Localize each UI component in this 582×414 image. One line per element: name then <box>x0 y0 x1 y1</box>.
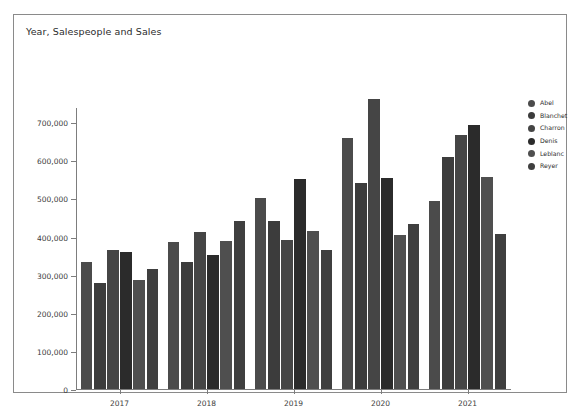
y-axis-tick-label: 700,000 <box>37 119 68 128</box>
bar[interactable] <box>394 235 405 389</box>
bar[interactable] <box>81 262 92 389</box>
legend-item-label: Blanchet <box>540 113 567 119</box>
legend-item[interactable]: Reyer <box>528 160 582 173</box>
bar[interactable] <box>281 240 292 389</box>
bar[interactable] <box>133 280 144 389</box>
y-axis-tick-label: 300,000 <box>37 271 68 280</box>
legend-swatch-circle-icon <box>528 138 535 145</box>
x-axis-tick <box>381 390 382 394</box>
legend-item[interactable]: Charron <box>528 122 582 135</box>
bar[interactable] <box>481 177 492 389</box>
legend-swatch-circle-icon <box>528 163 535 170</box>
y-axis-tick-label: 600,000 <box>37 157 68 166</box>
y-axis-tick-label: 0 <box>63 386 68 395</box>
page-title: Year, Salespeople and Sales <box>26 26 162 37</box>
screenshot-root: Year, Salespeople and Sales 0100,000200,… <box>0 0 582 414</box>
legend-swatch-circle-icon <box>528 150 535 157</box>
legend-item[interactable]: Leblanc <box>528 147 582 160</box>
y-axis-tick <box>71 238 76 239</box>
y-axis-tick-label: 200,000 <box>37 309 68 318</box>
bar[interactable] <box>147 269 158 389</box>
bar[interactable] <box>220 241 231 389</box>
bar[interactable] <box>381 178 392 389</box>
x-axis-tick <box>207 390 208 394</box>
legend-item-label: Reyer <box>540 163 558 169</box>
bar[interactable] <box>468 125 479 389</box>
x-axis-tick <box>468 390 469 394</box>
bar[interactable] <box>107 250 118 389</box>
bar[interactable] <box>342 138 353 389</box>
bar[interactable] <box>294 179 305 389</box>
chart-legend: AbelBlanchetCharronDenisLeblancReyer <box>528 97 582 173</box>
y-axis-tick <box>71 352 76 353</box>
bar[interactable] <box>120 252 131 389</box>
legend-item-label: Abel <box>540 100 554 106</box>
bar[interactable] <box>307 231 318 389</box>
bar-group-container <box>76 108 511 389</box>
bar[interactable] <box>168 242 179 389</box>
y-axis-tick <box>71 161 76 162</box>
x-axis-tick-label: 2021 <box>458 399 477 408</box>
chart-card: Year, Salespeople and Sales 0100,000200,… <box>13 14 567 393</box>
legend-item[interactable]: Denis <box>528 135 582 148</box>
bar[interactable] <box>455 135 466 389</box>
bar[interactable] <box>408 224 419 389</box>
legend-item-label: Charron <box>540 125 565 131</box>
x-axis-tick <box>294 390 295 394</box>
y-axis-tick-label: 400,000 <box>37 233 68 242</box>
legend-item-label: Leblanc <box>540 151 564 157</box>
bar[interactable] <box>181 262 192 389</box>
x-axis-tick-label: 2018 <box>197 399 216 408</box>
y-axis-tick <box>71 199 76 200</box>
bar[interactable] <box>321 250 332 389</box>
bar[interactable] <box>255 198 266 389</box>
y-axis-tick-label: 100,000 <box>37 347 68 356</box>
bar[interactable] <box>207 255 218 389</box>
legend-swatch-circle-icon <box>528 100 535 107</box>
y-axis-tick <box>71 390 76 391</box>
legend-item-label: Denis <box>540 138 557 144</box>
legend-item[interactable]: Blanchet <box>528 110 582 123</box>
y-axis-tick-label: 500,000 <box>37 195 68 204</box>
bar[interactable] <box>194 232 205 389</box>
x-axis-tick-label: 2017 <box>110 399 129 408</box>
bar[interactable] <box>355 183 366 389</box>
bar[interactable] <box>234 221 245 389</box>
bar[interactable] <box>94 283 105 389</box>
bar[interactable] <box>442 157 453 389</box>
bar[interactable] <box>429 201 440 389</box>
x-axis-tick-label: 2020 <box>371 399 390 408</box>
y-axis-tick <box>71 314 76 315</box>
bar[interactable] <box>368 99 379 389</box>
legend-swatch-circle-icon <box>528 112 535 119</box>
y-axis-tick <box>71 276 76 277</box>
x-axis-tick <box>120 390 121 394</box>
bar[interactable] <box>268 221 279 389</box>
bar[interactable] <box>495 234 506 389</box>
plot-area: 0100,000200,000300,000400,000500,000600,… <box>76 108 511 390</box>
legend-swatch-circle-icon <box>528 125 535 132</box>
legend-item[interactable]: Abel <box>528 97 582 110</box>
x-axis-tick-label: 2019 <box>284 399 303 408</box>
y-axis-tick <box>71 123 76 124</box>
